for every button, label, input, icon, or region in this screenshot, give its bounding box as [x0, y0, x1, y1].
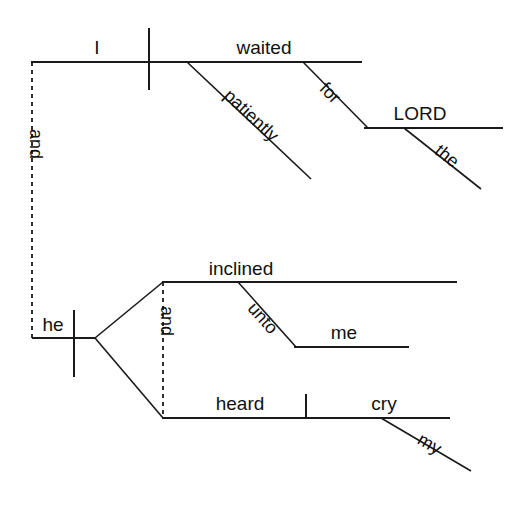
label-direct-object-cry: cry	[371, 394, 396, 413]
label-inner-connector-and: and	[158, 306, 176, 336]
label-verb-inclined: inclined	[209, 259, 273, 278]
label-subject-i: I	[94, 38, 99, 57]
label-prep-object-me: me	[331, 323, 357, 342]
label-connector-and: and	[27, 129, 45, 159]
sentence-diagram: I waited patiently for LORD the and he a…	[0, 0, 521, 508]
label-verb-heard: heard	[216, 394, 265, 413]
compound-verb-branch-lower	[95, 338, 163, 418]
label-subject-he: he	[42, 315, 63, 334]
compound-verb-branch-upper	[95, 282, 163, 338]
diagram-canvas	[0, 0, 521, 508]
label-verb-waited: waited	[237, 38, 292, 57]
label-prep-object-lord: LORD	[394, 104, 447, 123]
